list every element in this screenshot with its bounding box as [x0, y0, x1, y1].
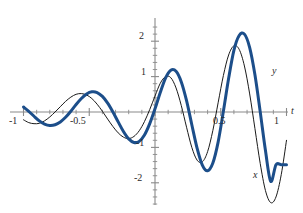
y-tick-label-two: 2 [139, 31, 144, 41]
curve-label-y: y [272, 66, 276, 76]
curve-label-x: x [253, 170, 257, 180]
y-tick-label-one: 1 [141, 67, 146, 77]
plot-canvas [0, 0, 303, 213]
y-tick-label-neg-one: -1 [136, 138, 144, 148]
x-tick-label-one: 1 [274, 116, 279, 126]
x-tick-label-neg-one: -1 [9, 116, 17, 126]
chart-figure: -1 -0.5 0.5 1 2 1 -1 -2 t y x [0, 0, 303, 213]
y-tick-label-neg-two: -2 [134, 173, 142, 183]
x-tick-label-half: 0.5 [213, 116, 226, 126]
x-tick-label-neg-half: -0.5 [70, 116, 86, 126]
x-axis-name: t [291, 106, 294, 116]
